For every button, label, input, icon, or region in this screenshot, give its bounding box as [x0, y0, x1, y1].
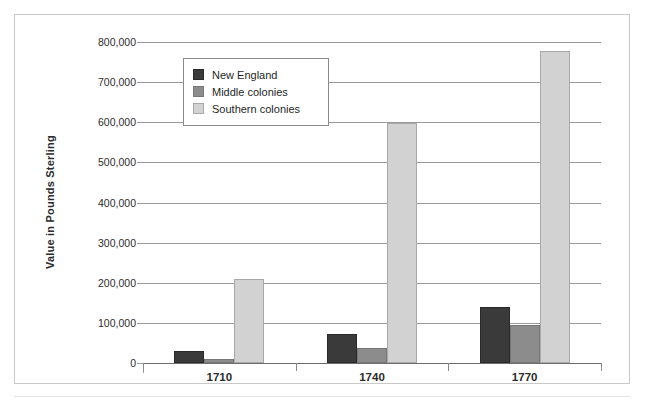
x-tick-label: 1770: [465, 371, 585, 383]
y-tick-label: 500,000: [16, 156, 136, 168]
x-tick-mark: [143, 363, 144, 371]
y-tick-label: 700,000: [16, 76, 136, 88]
bar: [480, 307, 510, 363]
legend-label: New England: [212, 69, 277, 81]
bar: [540, 51, 570, 363]
y-tick-mark: [137, 82, 143, 83]
chart-figure: Value in Pounds Sterling 0100,000200,000…: [0, 0, 647, 407]
x-tick-mark: [296, 363, 297, 371]
y-tick-mark: [137, 323, 143, 324]
y-tick-label: 600,000: [16, 116, 136, 128]
x-tick-label: 1710: [159, 371, 279, 383]
legend-swatch: [193, 103, 204, 114]
legend-label: Southern colonies: [212, 103, 300, 115]
legend-item: Southern colonies: [193, 100, 319, 117]
y-tick-mark: [137, 363, 143, 364]
y-tick-mark: [137, 243, 143, 244]
y-tick-mark: [137, 162, 143, 163]
footer-divider: [14, 396, 630, 397]
x-tick-mark: [601, 363, 602, 371]
y-tick-label: 400,000: [16, 197, 136, 209]
bar: [510, 325, 540, 363]
legend-label: Middle colonies: [212, 86, 288, 98]
legend-swatch: [193, 86, 204, 97]
y-tick-label: 200,000: [16, 277, 136, 289]
x-tick-mark: [448, 363, 449, 371]
y-tick-mark: [137, 283, 143, 284]
chart-legend: New EnglandMiddle coloniesSouthern colon…: [183, 58, 329, 126]
legend-item: New England: [193, 66, 319, 83]
y-tick-mark: [137, 203, 143, 204]
y-axis-tick-labels: 0100,000200,000300,000400,000500,000600,…: [8, 0, 136, 407]
y-tick-label: 300,000: [16, 237, 136, 249]
y-tick-mark: [137, 42, 143, 43]
y-tick-label: 800,000: [16, 36, 136, 48]
y-tick-mark: [137, 122, 143, 123]
legend-item: Middle colonies: [193, 83, 319, 100]
x-axis-line: [143, 363, 601, 364]
y-tick-label: 0: [16, 357, 136, 369]
x-tick-label: 1740: [312, 371, 432, 383]
y-tick-label: 100,000: [16, 317, 136, 329]
legend-swatch: [193, 69, 204, 80]
